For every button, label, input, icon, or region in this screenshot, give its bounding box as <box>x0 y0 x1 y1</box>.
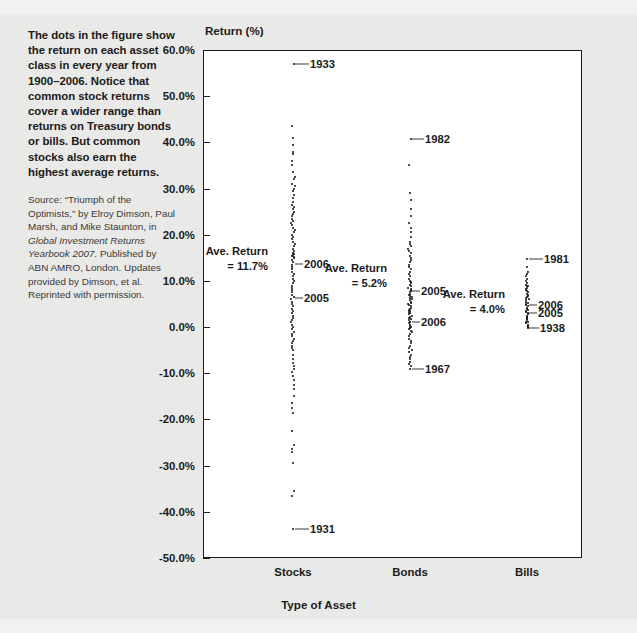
data-point <box>409 368 411 370</box>
data-point <box>292 349 294 351</box>
y-axis-tick-label: -40.0% <box>135 506 195 518</box>
y-axis-tick-mark <box>203 142 210 143</box>
label-leader-line <box>295 529 309 530</box>
y-axis-tick-mark <box>203 50 210 51</box>
data-point <box>292 358 294 360</box>
data-point <box>410 227 412 229</box>
data-point-label-1982: 1982 <box>425 133 450 145</box>
label-leader-line <box>412 368 424 369</box>
data-point <box>293 384 295 386</box>
data-point-label-1933: 1933 <box>310 58 335 70</box>
data-point <box>293 257 295 259</box>
label-leader-line <box>529 328 539 329</box>
data-point <box>526 266 528 268</box>
average-return-line: = 5.2% <box>325 275 387 290</box>
average-return-note-bonds: Ave. Return= 5.2% <box>325 261 387 290</box>
y-axis-tick-mark <box>203 281 210 282</box>
data-point <box>410 231 412 233</box>
data-point <box>292 462 294 464</box>
scatter-chart: Return (%) Type of Asset 60.0%50.0%40.0%… <box>0 0 637 633</box>
label-leader-line <box>295 264 303 265</box>
average-return-note-bills: Ave. Return= 4.0% <box>443 287 505 316</box>
data-point <box>291 125 293 127</box>
average-return-line: = 4.0% <box>443 301 505 316</box>
data-point <box>411 331 413 333</box>
y-axis-tick-label: 10.0% <box>135 275 195 287</box>
data-point <box>291 183 293 185</box>
data-point <box>293 379 295 381</box>
average-return-note-stocks: Ave. Return= 11.7% <box>206 244 268 273</box>
data-point <box>293 194 295 196</box>
data-point <box>292 375 294 377</box>
y-axis-tick-mark <box>203 512 210 513</box>
average-return-line: Ave. Return <box>206 244 268 259</box>
data-point <box>410 236 412 238</box>
y-axis-tick-mark <box>203 373 210 374</box>
data-point <box>410 354 412 356</box>
data-point-label-1938: 1938 <box>540 322 565 334</box>
data-point <box>293 178 295 180</box>
y-axis-tick-label: 0.0% <box>135 321 195 333</box>
label-leader-line <box>529 312 537 313</box>
y-axis-tick-label: 20.0% <box>135 229 195 241</box>
data-point <box>291 160 293 162</box>
y-axis-tick-label: 60.0% <box>135 44 195 56</box>
data-point <box>291 495 293 497</box>
y-axis-tick-label: -20.0% <box>135 413 195 425</box>
label-leader-line <box>412 291 420 292</box>
data-point-label-2005: 2005 <box>538 307 563 319</box>
data-point <box>291 164 293 166</box>
data-point <box>292 528 294 530</box>
label-leader-line <box>295 63 309 64</box>
data-point <box>292 144 294 146</box>
y-axis-title: Return (%) <box>205 24 264 37</box>
data-point <box>409 192 411 194</box>
data-point <box>526 258 528 260</box>
x-axis-title: Type of Asset <box>0 598 637 611</box>
data-point <box>292 171 294 173</box>
figure-page: The dots in the figure show the return o… <box>0 0 637 633</box>
data-point-label-2006: 2006 <box>421 316 446 328</box>
y-axis-tick-mark <box>203 558 210 559</box>
y-axis-tick-mark <box>203 327 210 328</box>
data-point <box>291 402 293 404</box>
data-point <box>527 321 529 323</box>
y-axis-tick-label: -50.0% <box>135 552 195 564</box>
y-axis-tick-label: 50.0% <box>135 90 195 102</box>
label-leader-line <box>412 138 424 139</box>
data-point <box>292 412 294 414</box>
data-point <box>292 153 294 155</box>
data-point <box>291 407 293 409</box>
y-axis-tick-mark <box>203 235 210 236</box>
data-point <box>291 430 293 432</box>
data-point <box>410 215 412 217</box>
label-leader-line <box>412 321 420 322</box>
y-axis-tick-mark <box>203 419 210 420</box>
data-point <box>293 388 295 390</box>
y-axis-tick-label: -30.0% <box>135 460 195 472</box>
y-axis-tick-label: 30.0% <box>135 183 195 195</box>
data-point <box>292 137 294 139</box>
data-point <box>293 490 295 492</box>
data-point <box>409 271 411 273</box>
data-point <box>408 313 410 315</box>
data-point <box>292 362 294 364</box>
average-return-line: Ave. Return <box>443 287 505 302</box>
data-point-label-2005: 2005 <box>304 292 329 304</box>
data-point <box>528 298 530 300</box>
data-point <box>410 245 412 247</box>
average-return-line: Ave. Return <box>325 261 387 276</box>
x-axis-tick-label-bonds: Bonds <box>392 566 427 578</box>
data-point <box>293 395 295 397</box>
data-point <box>410 208 412 210</box>
data-point <box>411 349 413 351</box>
data-point <box>410 199 412 201</box>
label-leader-line <box>529 259 543 260</box>
data-point <box>408 222 410 224</box>
data-point <box>293 444 295 446</box>
data-point <box>292 354 294 356</box>
data-point <box>292 190 294 192</box>
data-point <box>291 451 293 453</box>
data-point <box>293 331 295 333</box>
y-axis-tick-mark <box>203 466 210 467</box>
